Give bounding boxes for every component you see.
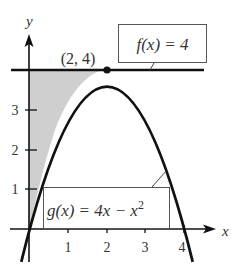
x-tick-label-3: 3 bbox=[142, 240, 149, 255]
y-tick-label-2: 2 bbox=[12, 143, 19, 158]
x-tick-label-2: 2 bbox=[104, 240, 111, 255]
x-tick-label-1: 1 bbox=[65, 240, 72, 255]
vertex-label: (2, 4) bbox=[61, 50, 96, 68]
x-tick-label-4: 4 bbox=[179, 240, 186, 255]
graph-canvas: y x 1 2 3 4 1 2 3 (2, 4) f(x) = 4 g(x) =… bbox=[0, 0, 232, 278]
f-label-text: f(x) = 4 bbox=[136, 35, 189, 54]
g-label-main: g(x) = 4x − x bbox=[47, 201, 138, 220]
g-label-text: g(x) = 4x − x2 bbox=[47, 198, 144, 220]
g-label-pointer bbox=[152, 171, 166, 187]
y-axis-label: y bbox=[24, 13, 33, 29]
vertex-point bbox=[103, 66, 110, 73]
x-axis-label: x bbox=[221, 223, 229, 239]
g-label-exponent: 2 bbox=[138, 198, 144, 212]
y-tick-label-3: 3 bbox=[12, 103, 19, 118]
y-tick-label-1: 1 bbox=[12, 182, 19, 197]
